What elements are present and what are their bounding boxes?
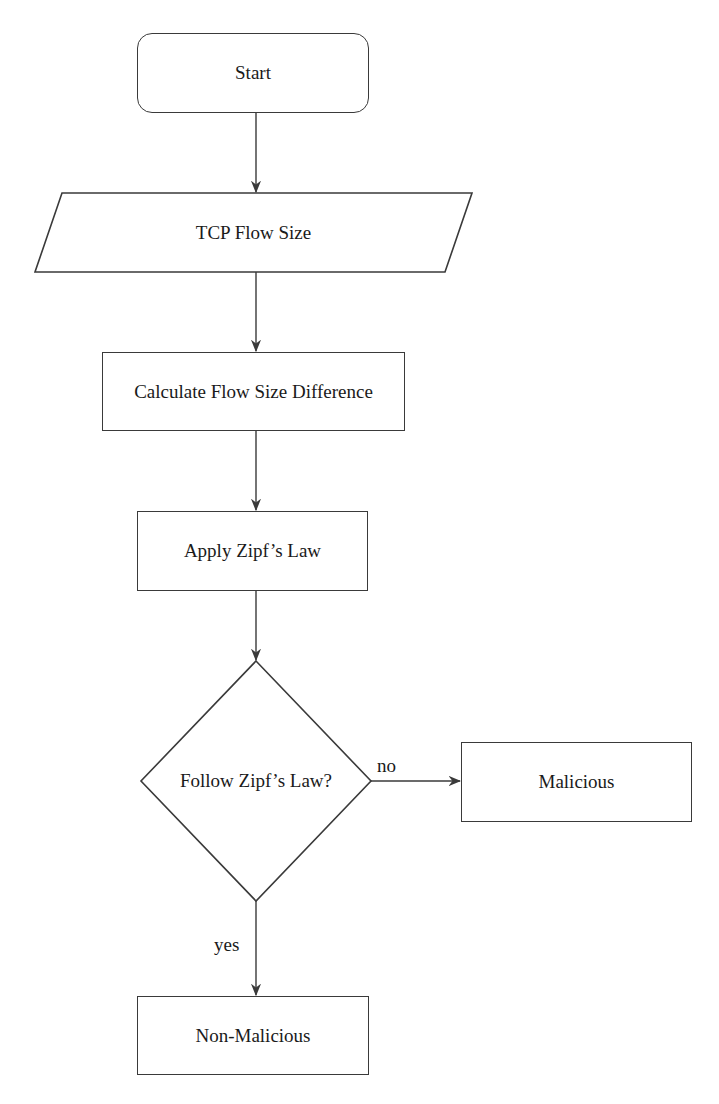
calc-label: Calculate Flow Size Difference — [134, 381, 373, 403]
input-node: TCP Flow Size — [35, 193, 472, 272]
calc-node: Calculate Flow Size Difference — [102, 352, 405, 431]
input-label: TCP Flow Size — [196, 222, 311, 244]
malicious-node: Malicious — [461, 742, 692, 822]
decision-label: Follow Zipf’s Law? — [180, 770, 332, 792]
malicious-label: Malicious — [539, 771, 615, 793]
zipf-node: Apply Zipf’s Law — [137, 511, 368, 591]
nonmalicious-node: Non-Malicious — [137, 996, 369, 1075]
nonmalicious-label: Non-Malicious — [195, 1025, 310, 1047]
zipf-label: Apply Zipf’s Law — [184, 540, 321, 562]
start-node: Start — [137, 33, 369, 113]
edge-label-no: no — [377, 755, 396, 777]
edge-label-yes: yes — [214, 934, 239, 956]
decision-node: Follow Zipf’s Law? — [141, 761, 371, 801]
start-label: Start — [235, 62, 271, 84]
